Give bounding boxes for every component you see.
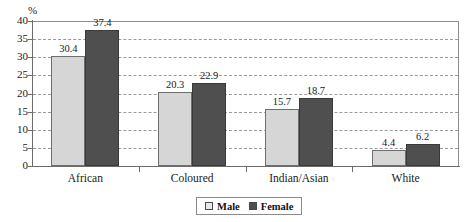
- bar-female: [192, 83, 226, 166]
- y-axis-tick-mark: [28, 130, 33, 131]
- bar-male: [372, 150, 406, 166]
- bar-male: [51, 56, 85, 166]
- bar-male: [158, 92, 192, 166]
- y-axis-tick-mark: [28, 21, 33, 22]
- y-axis-tick-label: 20: [4, 88, 28, 99]
- data-label: 6.2: [400, 131, 446, 142]
- y-axis-tick-mark: [28, 57, 33, 58]
- y-axis-tick-mark: [28, 94, 33, 95]
- y-axis-tick-label: 0: [4, 160, 28, 171]
- x-axis-category-label: Indian/Asian: [246, 172, 353, 185]
- legend: Male Female: [196, 197, 302, 215]
- legend-item-female: Female: [249, 201, 294, 212]
- y-axis-unit-label: %: [28, 4, 37, 16]
- y-axis-tick-label: 35: [4, 33, 28, 44]
- x-axis-category-label: White: [352, 172, 459, 185]
- y-axis-tick-mark: [28, 166, 33, 167]
- y-axis-tick-mark: [28, 39, 33, 40]
- y-axis-tick-label: 40: [4, 15, 28, 26]
- x-axis-category-label: African: [32, 172, 139, 185]
- data-label: 30.4: [45, 43, 91, 54]
- y-axis-tick-label: 25: [4, 69, 28, 80]
- y-axis-tick-label: 10: [4, 124, 28, 135]
- data-label: 20.3: [152, 79, 198, 90]
- y-axis-tick-mark: [28, 112, 33, 113]
- legend-swatch-male-icon: [205, 202, 213, 210]
- bar-chart: % 0510152025303540 30.437.420.322.915.71…: [0, 0, 470, 222]
- legend-swatch-female-icon: [249, 202, 257, 210]
- data-label: 15.7: [259, 96, 305, 107]
- data-label: 22.9: [186, 70, 232, 81]
- y-axis-tick-label: 30: [4, 51, 28, 62]
- bar-female: [299, 98, 333, 166]
- y-axis-tick-mark: [28, 148, 33, 149]
- legend-label-female: Female: [261, 201, 294, 212]
- data-label: 18.7: [293, 85, 339, 96]
- y-axis-tick-mark: [28, 75, 33, 76]
- y-axis-tick-label: 5: [4, 142, 28, 153]
- data-label: 37.4: [79, 17, 125, 28]
- bar-male: [265, 109, 299, 166]
- legend-item-male: Male: [205, 201, 240, 212]
- legend-label-male: Male: [217, 201, 240, 212]
- y-axis-tick-label: 15: [4, 106, 28, 117]
- x-axis-category-label: Coloured: [139, 172, 246, 185]
